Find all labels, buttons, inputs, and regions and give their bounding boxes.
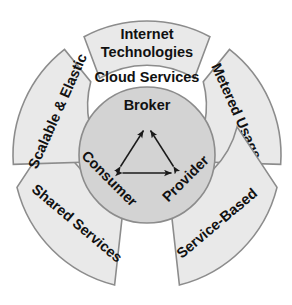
cloud-services-label: Cloud Services	[95, 69, 200, 85]
segment-label-internet-technologies-line2: Technologies	[101, 44, 193, 60]
diagram-canvas: Internet Technologies Metered Usage Serv…	[0, 0, 292, 305]
core-node-broker[interactable]: Broker	[124, 97, 171, 113]
core-label-broker: Broker	[124, 97, 171, 113]
segment-label-internet-technologies-line1: Internet	[120, 26, 173, 42]
cloud-services-diagram: Internet Technologies Metered Usage Serv…	[0, 0, 292, 305]
